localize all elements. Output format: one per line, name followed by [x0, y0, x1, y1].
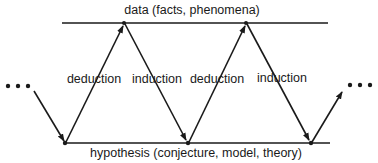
deduction-label-2: deduction — [190, 72, 244, 86]
hypothesis-level-label: hypothesis (conjecture, model, theory) — [90, 146, 302, 160]
data-level-label: data (facts, phenomena) — [124, 3, 260, 17]
hypothesis-vertex-3 — [309, 141, 313, 145]
deduction-label-1: deduction — [67, 72, 121, 86]
induction-label-2: induction — [257, 71, 307, 85]
incoming-arrow — [34, 91, 64, 141]
left-ellipsis-icon — [6, 84, 30, 88]
data-vertex-2 — [244, 21, 248, 25]
deduction-induction-diagram: data (facts, phenomena) hypothesis (conj… — [0, 0, 378, 163]
outgoing-arrow — [312, 92, 342, 142]
data-vertex-1 — [122, 21, 126, 25]
induction-label-1: induction — [132, 72, 182, 86]
hypothesis-vertex-1 — [63, 141, 67, 145]
right-ellipsis-icon — [348, 83, 372, 87]
hypothesis-vertex-2 — [186, 141, 190, 145]
